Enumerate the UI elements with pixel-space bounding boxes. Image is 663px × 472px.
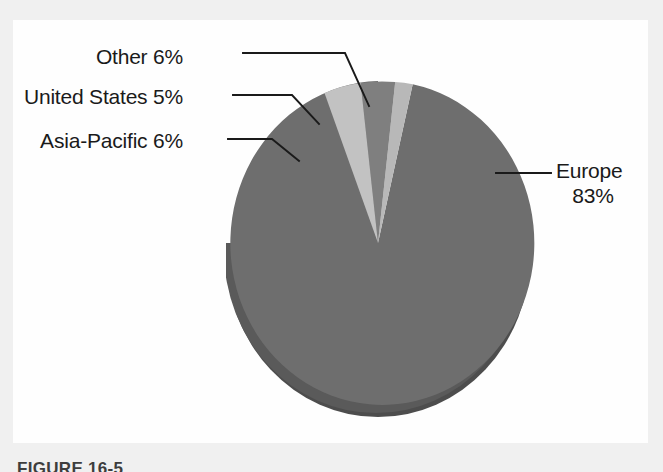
slice-label-europe-value: 83% — [556, 183, 630, 208]
pie-slices — [230, 81, 534, 405]
slice-label-europe: Europe 83% — [556, 158, 630, 208]
figure-page: Other 6% United States 5% Asia-Pacific 6… — [0, 0, 663, 472]
figure-caption: FIGURE 16-5 — [17, 459, 123, 472]
slice-label-asia-pacific: Asia-Pacific 6% — [40, 128, 183, 153]
slice-label-other: Other 6% — [96, 44, 183, 69]
slice-label-united-states: United States 5% — [24, 84, 183, 109]
slice-label-europe-name: Europe — [556, 159, 623, 182]
pie-chart — [0, 0, 663, 472]
